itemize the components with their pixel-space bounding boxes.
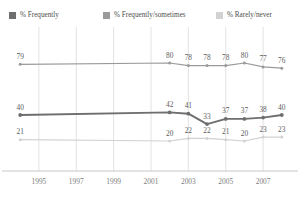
svg-text:20: 20 — [166, 129, 174, 138]
svg-text:80: 80 — [241, 51, 249, 60]
svg-text:2005: 2005 — [218, 177, 233, 186]
svg-text:23: 23 — [278, 125, 286, 134]
svg-text:79: 79 — [17, 52, 25, 61]
svg-text:42: 42 — [166, 100, 174, 109]
svg-text:1997: 1997 — [69, 177, 84, 186]
legend-swatch-rarely-never — [216, 12, 223, 19]
legend-swatch-frequently — [9, 12, 16, 19]
svg-text:33: 33 — [203, 112, 211, 121]
svg-text:40: 40 — [17, 103, 25, 112]
legend-label-frequently: % Frequently — [20, 11, 59, 20]
svg-text:41: 41 — [185, 101, 193, 110]
svg-text:40: 40 — [278, 103, 286, 112]
legend-item-rarely-never[interactable]: % Rarely/never — [216, 11, 272, 20]
legend-item-frequently-sometimes[interactable]: % Frequently/sometimes — [103, 11, 186, 20]
svg-text:80: 80 — [166, 51, 174, 60]
svg-text:23: 23 — [259, 125, 267, 134]
chart-gridlines — [39, 27, 263, 171]
svg-text:20: 20 — [241, 129, 249, 138]
svg-text:78: 78 — [203, 53, 211, 62]
svg-text:76: 76 — [278, 56, 286, 65]
svg-text:37: 37 — [222, 106, 230, 115]
svg-text:21: 21 — [222, 127, 230, 136]
svg-text:1999: 1999 — [106, 177, 121, 186]
svg-text:1995: 1995 — [32, 177, 47, 186]
svg-text:77: 77 — [259, 54, 267, 63]
svg-text:2007: 2007 — [256, 177, 271, 186]
svg-text:78: 78 — [222, 53, 230, 62]
svg-text:2001: 2001 — [144, 177, 159, 186]
chart-plot-area: 2120222221202323798078787880777640424133… — [0, 27, 301, 209]
chart-legend: % Frequently % Frequently/sometimes % Ra… — [0, 11, 301, 24]
chart-title-strip — [0, 0, 301, 9]
svg-text:78: 78 — [185, 53, 193, 62]
legend-swatch-frequently-sometimes — [103, 12, 110, 19]
chart-x-tick-labels: 1995199719992001200320052007 — [32, 177, 271, 186]
svg-text:37: 37 — [241, 106, 249, 115]
legend-label-frequently-sometimes: % Frequently/sometimes — [114, 11, 186, 20]
svg-text:38: 38 — [259, 105, 267, 114]
svg-text:22: 22 — [203, 126, 211, 135]
svg-text:21: 21 — [17, 127, 25, 136]
svg-text:22: 22 — [185, 126, 193, 135]
line-chart-svg: 2120222221202323798078787880777640424133… — [0, 27, 301, 209]
legend-item-frequently[interactable]: % Frequently — [9, 11, 59, 20]
legend-label-rarely-never: % Rarely/never — [227, 11, 272, 20]
svg-text:2003: 2003 — [181, 177, 196, 186]
